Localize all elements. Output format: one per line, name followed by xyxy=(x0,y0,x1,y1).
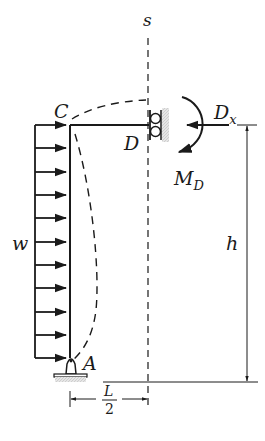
label-l-numerator: L xyxy=(103,383,113,399)
label-c: C xyxy=(54,100,69,122)
label-md: MD xyxy=(173,167,204,193)
label-h: h xyxy=(226,232,238,254)
label-s: s xyxy=(143,10,152,30)
roller-support-d xyxy=(150,108,169,142)
label-d: D xyxy=(123,132,139,154)
distributed-load-w xyxy=(35,125,66,358)
frame-diagram: s C D MD Dx w xyxy=(0,0,265,441)
label-l-denominator: 2 xyxy=(105,401,114,417)
label-a: A xyxy=(81,352,97,374)
label-dx: Dx xyxy=(213,101,237,127)
label-w: w xyxy=(12,232,28,254)
